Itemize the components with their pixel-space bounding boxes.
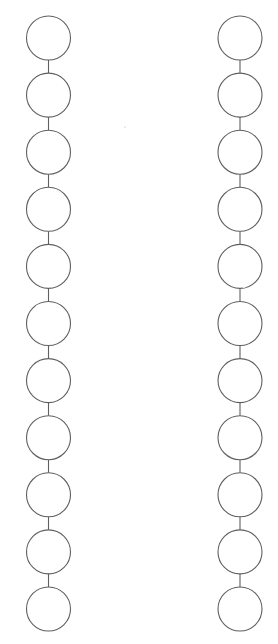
circle-node — [27, 187, 71, 231]
right-node-chain — [218, 16, 262, 631]
left-node-chain — [27, 16, 71, 631]
circle-node — [27, 587, 71, 631]
circle-node — [218, 244, 262, 288]
circle-node — [218, 359, 262, 403]
circle-node — [27, 473, 71, 517]
circle-node — [27, 16, 71, 60]
diagram-canvas — [0, 0, 278, 644]
circle-node — [218, 73, 262, 117]
circle-node — [218, 416, 262, 460]
circle-node — [218, 587, 262, 631]
circle-node — [27, 530, 71, 574]
stray-mark — [124, 126, 126, 128]
circle-node — [27, 416, 71, 460]
circle-node — [27, 130, 71, 174]
circle-node — [218, 530, 262, 574]
circle-node — [218, 130, 262, 174]
circle-node — [218, 302, 262, 346]
circle-node — [27, 73, 71, 117]
stroke-gap — [243, 286, 246, 287]
circle-node — [218, 473, 262, 517]
circle-node — [27, 244, 71, 288]
circle-node — [218, 187, 262, 231]
circle-node — [218, 16, 262, 60]
circle-node — [27, 302, 71, 346]
circle-node — [27, 359, 71, 403]
